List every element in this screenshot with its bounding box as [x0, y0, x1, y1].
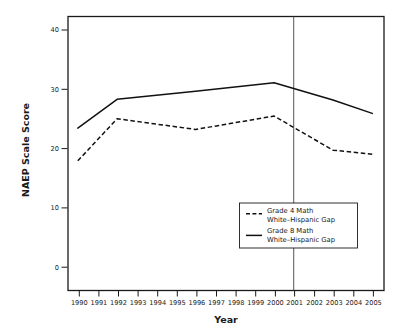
legend-label-grade-4-line1: Grade 4 Math	[267, 207, 313, 215]
y-tick-label-30: 30	[51, 86, 59, 94]
x-tick-label-1998: 1998	[228, 299, 245, 307]
x-tick-label-2001: 2001	[286, 299, 303, 307]
line-chart: NAEP Scale Score 40 30 20 10 0 Grade 4 M…	[0, 0, 402, 331]
x-tick-label-2002: 2002	[306, 299, 323, 307]
x-tick-label-1992: 1992	[110, 299, 127, 307]
y-tick-label-20: 20	[51, 145, 59, 153]
legend-label-grade-4-line2: White–Hispanic Gap	[267, 216, 335, 224]
chart-background	[0, 0, 402, 331]
legend-label-grade-8-line1: Grade 8 Math	[267, 227, 313, 235]
x-tick-label-2003: 2003	[326, 299, 343, 307]
x-tick-label-1999: 1999	[247, 299, 264, 307]
x-tick-label-2004: 2004	[345, 299, 362, 307]
x-tick-label-1997: 1997	[208, 299, 225, 307]
y-tick-label-0: 0	[55, 264, 59, 272]
x-tick-label-1996: 1996	[189, 299, 206, 307]
y-axis-title: NAEP Scale Score	[20, 103, 31, 197]
legend-label-grade-8-line2: White–Hispanic Gap	[267, 236, 335, 244]
x-axis-title: Year	[213, 314, 238, 325]
x-tick-label-1993: 1993	[130, 299, 147, 307]
x-tick-label-1990: 1990	[71, 299, 88, 307]
x-tick-label-2000: 2000	[267, 299, 284, 307]
x-tick-label-2005: 2005	[365, 299, 382, 307]
x-tick-label-1991: 1991	[91, 299, 108, 307]
y-tick-label-40: 40	[51, 26, 59, 34]
x-tick-label-1995: 1995	[169, 299, 186, 307]
x-tick-label-1994: 1994	[149, 299, 166, 307]
chart-legend: Grade 4 Math White–Hispanic Gap Grade 8 …	[240, 203, 358, 248]
y-tick-label-10: 10	[51, 204, 59, 212]
